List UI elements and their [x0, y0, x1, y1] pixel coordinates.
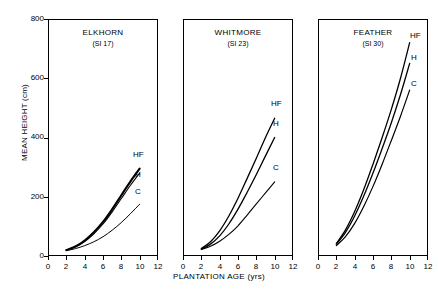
- x-tick-label: 0: [41, 262, 55, 271]
- curve-c: [66, 204, 139, 251]
- x-tick-label: 12: [421, 262, 435, 271]
- x-tick-mark: [318, 256, 319, 260]
- x-tick-label: 8: [384, 262, 398, 271]
- y-tick-label: 400: [18, 133, 44, 141]
- x-tick-mark: [410, 256, 411, 260]
- curve-hf: [66, 169, 139, 250]
- x-tick-label: 6: [366, 262, 380, 271]
- curve-hf: [336, 43, 409, 244]
- curve-c: [336, 90, 409, 246]
- x-axis-title: PLANTATION AGE (yrs): [0, 272, 438, 281]
- x-tick-mark: [201, 256, 202, 260]
- y-tick-label: 800: [18, 15, 44, 23]
- x-tick-mark: [157, 256, 158, 260]
- x-tick-mark: [256, 256, 257, 260]
- x-tick-mark: [427, 256, 428, 260]
- curve-hf: [201, 118, 274, 248]
- x-tick-mark: [103, 256, 104, 260]
- series-label-hf: HF: [133, 151, 144, 159]
- plot-curves: [48, 19, 158, 256]
- x-tick-label: 6: [96, 262, 110, 271]
- series-label-h: H: [135, 171, 141, 179]
- x-tick-label: 10: [403, 262, 417, 271]
- x-tick-label: 12: [286, 262, 300, 271]
- x-tick-label: 0: [311, 262, 325, 271]
- y-axis-ticks: 800 600 400 200 0: [14, 0, 44, 300]
- plot-curves: [183, 19, 293, 256]
- x-tick-mark: [373, 256, 374, 260]
- x-tick-mark: [275, 256, 276, 260]
- series-label-hf: HF: [410, 32, 421, 40]
- series-label-hf: HF: [271, 100, 282, 108]
- series-label-h: H: [411, 54, 417, 62]
- series-label-c: C: [273, 164, 279, 172]
- x-tick-mark: [336, 256, 337, 260]
- x-tick-label: 10: [268, 262, 282, 271]
- x-tick-mark: [140, 256, 141, 260]
- panel-feather: FEATHER (SI 30) HF H C 0 2 4 6 8 10 12: [318, 19, 428, 256]
- x-tick-mark: [292, 256, 293, 260]
- y-tick-label: 600: [18, 74, 44, 82]
- x-tick-mark: [48, 256, 49, 260]
- x-tick-label: 4: [78, 262, 92, 271]
- x-tick-mark: [355, 256, 356, 260]
- series-label-c: C: [411, 80, 417, 88]
- y-tick-label: 200: [18, 193, 44, 201]
- x-tick-mark: [121, 256, 122, 260]
- x-tick-label: 8: [114, 262, 128, 271]
- x-tick-label: 6: [231, 262, 245, 271]
- panel-whitmore: WHITMORE (SI 23) HF H C 0 2 4 6 8 10 12: [183, 19, 293, 256]
- x-tick-mark: [238, 256, 239, 260]
- x-tick-label: 10: [133, 262, 147, 271]
- curve-h: [201, 138, 274, 250]
- series-label-c: C: [135, 188, 141, 196]
- x-tick-mark: [391, 256, 392, 260]
- x-tick-label: 4: [213, 262, 227, 271]
- series-label-h: H: [273, 120, 279, 128]
- x-tick-label: 12: [151, 262, 165, 271]
- x-tick-label: 8: [249, 262, 263, 271]
- x-tick-label: 0: [176, 262, 190, 271]
- x-tick-label: 2: [59, 262, 73, 271]
- x-tick-label: 4: [348, 262, 362, 271]
- curve-h: [336, 63, 409, 244]
- x-tick-mark: [66, 256, 67, 260]
- panel-elkhorn: ELKHORN (SI 17) HF H C 0 2 4 6 8 10 12: [48, 19, 158, 256]
- x-tick-mark: [85, 256, 86, 260]
- y-tick-label: 0: [18, 252, 44, 260]
- x-tick-mark: [220, 256, 221, 260]
- x-tick-mark: [183, 256, 184, 260]
- x-tick-label: 2: [194, 262, 208, 271]
- chart-figure: MEAN HEIGHT (cm) 800 600 400 200 0 ELKHO…: [0, 0, 438, 300]
- x-tick-label: 2: [329, 262, 343, 271]
